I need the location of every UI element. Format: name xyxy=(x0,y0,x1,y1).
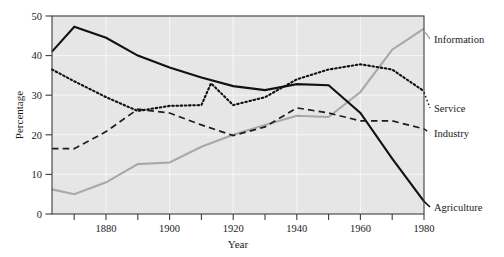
plot-area-background xyxy=(52,16,424,214)
x-tick-label-1960: 1960 xyxy=(350,223,371,234)
x-tick-label-1880: 1880 xyxy=(96,223,117,234)
x-tick-label-1940: 1940 xyxy=(286,223,307,234)
y-tick-label-0: 0 xyxy=(37,209,42,220)
chart-figure: 0 10 20 30 40 50 Percentage 1880 1900 19… xyxy=(0,0,504,257)
x-tick-label-1900: 1900 xyxy=(159,223,180,234)
y-tick-label-30: 30 xyxy=(32,90,43,101)
series-label-industry: Industry xyxy=(434,128,470,139)
y-tick-label-10: 10 xyxy=(32,169,43,180)
series-label-information: Information xyxy=(434,34,485,45)
occupational-structure-line-chart: 0 10 20 30 40 50 Percentage 1880 1900 19… xyxy=(0,0,504,257)
y-tick-label-50: 50 xyxy=(32,11,43,22)
series-label-service: Service xyxy=(434,103,466,114)
y-axis-title: Percentage xyxy=(13,91,25,139)
x-tick-label-1980: 1980 xyxy=(414,223,435,234)
y-tick-label-40: 40 xyxy=(32,50,43,61)
x-tick-label-1920: 1920 xyxy=(223,223,244,234)
series-label-agriculture: Agriculture xyxy=(434,202,483,213)
y-tick-label-20: 20 xyxy=(32,130,43,141)
x-axis-title: Year xyxy=(228,238,249,250)
